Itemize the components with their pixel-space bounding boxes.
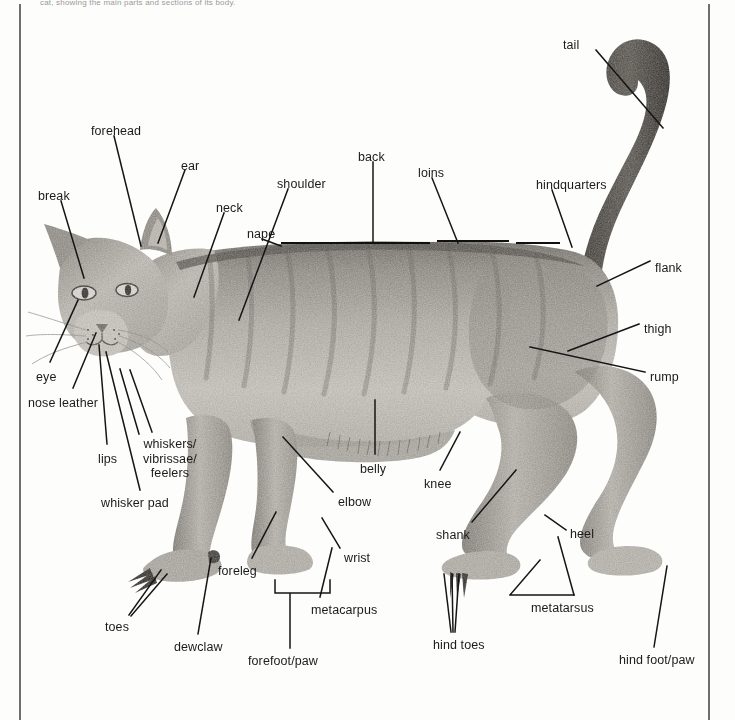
leader-line-hindquarters (552, 190, 572, 247)
part-label-hind-toes: hind toes (433, 638, 485, 653)
part-label-nape: nape (247, 227, 275, 242)
leader-line-forehead (114, 136, 141, 246)
figure-page: cat, showing the main parts and sections… (0, 0, 735, 720)
leader-line-toes-a (129, 570, 161, 615)
part-label-nose-leather: nose leather (28, 396, 98, 411)
part-label-toes: toes (105, 620, 129, 635)
part-label-metatarsus: metatarsus (531, 601, 594, 616)
part-label-whisker-pad: whisker pad (101, 496, 169, 511)
part-label-thigh: thigh (644, 322, 672, 337)
leader-line-whiskers-b (130, 370, 152, 432)
leader-line-flank (597, 261, 650, 286)
part-label-forehead: forehead (91, 124, 141, 139)
part-label-lips: lips (98, 452, 117, 467)
part-label-flank: flank (655, 261, 682, 276)
part-label-rump: rump (650, 370, 679, 385)
part-label-wrist: wrist (344, 551, 370, 566)
part-label-metacarpus: metacarpus (311, 603, 377, 618)
part-label-hindquarters: hindquarters (536, 178, 607, 193)
part-label-hind-foot-paw: hind foot/paw (619, 653, 695, 668)
part-label-break: break (38, 189, 70, 204)
leader-line-metatarsus (558, 537, 574, 595)
leader-line-ear (158, 170, 185, 243)
part-label-knee: knee (424, 477, 452, 492)
part-label-tail: tail (563, 38, 579, 53)
leader-line-heel (545, 515, 566, 530)
cat-hindleg-near (462, 393, 577, 564)
part-label-eye: eye (36, 370, 56, 385)
cat-muzzle (74, 310, 128, 356)
part-label-shank: shank (436, 528, 470, 543)
leader-line-hind-toes-a (444, 574, 451, 632)
part-label-ear: ear (181, 159, 199, 174)
leader-line-wrist (322, 518, 340, 548)
part-label-belly: belly (360, 462, 386, 477)
part-label-heel: heel (570, 527, 594, 542)
leader-line-lips (99, 345, 107, 444)
part-label-foreleg: foreleg (218, 564, 257, 579)
cat-eye-right-pupil (125, 285, 131, 295)
back-section-rules (281, 241, 560, 243)
leader-line-whiskers-a (120, 369, 139, 434)
part-label-whiskers: whiskers/vibrissae/feelers (143, 437, 197, 481)
part-label-back: back (358, 150, 385, 165)
part-label-dewclaw: dewclaw (174, 640, 223, 655)
part-label-elbow: elbow (338, 495, 371, 510)
cat-eye-left-pupil (82, 287, 89, 298)
part-label-loins: loins (418, 166, 444, 181)
part-label-forefoot-paw: forefoot/paw (248, 654, 318, 669)
leader-line-hind-toes-b (452, 574, 453, 632)
leader-line-hind-foot (654, 566, 667, 647)
part-label-shoulder: shoulder (277, 177, 326, 192)
leader-line-loins (432, 178, 458, 243)
part-label-neck: neck (216, 201, 243, 216)
